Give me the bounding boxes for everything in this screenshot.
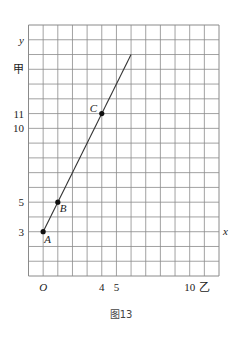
labels-group: ABC351011甲4510乙Oyx <box>13 34 228 293</box>
y-axis-label: y <box>18 34 24 46</box>
coordinate-grid-figure: ABC351011甲4510乙Oyx 图13 <box>0 0 242 338</box>
y-tick-label: 甲 <box>13 63 24 75</box>
origin-label: O <box>39 281 47 293</box>
y-tick-label: 11 <box>13 108 24 120</box>
point-C <box>99 111 104 116</box>
x-tick-label: 4 <box>99 281 105 293</box>
x-tick-label: 5 <box>114 281 120 293</box>
point-label-C: C <box>90 102 98 114</box>
x-tick-label: 10 <box>184 281 196 293</box>
x-axis-label: x <box>222 225 228 237</box>
x-tick-label: 乙 <box>199 281 210 293</box>
figure-caption: 图13 <box>110 309 133 320</box>
grid-lines <box>29 25 220 276</box>
y-tick-label: 10 <box>13 122 25 134</box>
point-label-B: B <box>60 202 67 214</box>
point-label-A: A <box>43 233 51 245</box>
y-tick-label: 5 <box>19 196 25 208</box>
y-tick-label: 3 <box>19 226 25 238</box>
